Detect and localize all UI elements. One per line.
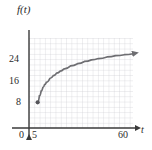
x-tick-label-0: 0: [19, 129, 24, 140]
y-tick-label-16: 16: [9, 75, 19, 86]
x-axis-label: t: [141, 124, 144, 135]
plot-area: [0, 0, 152, 150]
y-tick-label-24: 24: [9, 53, 19, 64]
function-graph-figure: f(t) t 24 16 8 0 5 60: [0, 0, 152, 150]
y-axis-label: f(t): [17, 3, 30, 15]
x-tick-label-60: 60: [118, 129, 128, 140]
y-tick-label-8: 8: [16, 96, 21, 107]
grid: [29, 38, 133, 128]
curve-start-dot: [36, 100, 40, 104]
x-tick-label-5: 5: [32, 129, 37, 140]
